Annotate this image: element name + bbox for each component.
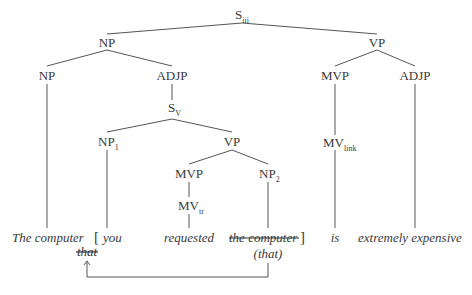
tree-svg: Siii NP VP NP ADJP MVP ADJP SV NP1 VP MV… [0,0,472,295]
word-that-paren: (that) [254,246,283,261]
node-adjp-main: ADJP [399,68,430,83]
close-bracket: ] [300,229,305,245]
word-extremely-expensive: extremely expensive [358,230,462,245]
node-vp-relative: VP [224,134,241,149]
open-bracket: [ [94,229,99,245]
word-you: you [101,230,122,245]
movement-arrow [84,261,268,277]
node-mv-link: MVlink [323,135,356,153]
word-is: is [331,230,340,245]
node-mv-tr: MVtr [178,198,204,216]
word-the-computer: The computer [12,230,85,245]
node-mvp-main: MVP [321,68,349,83]
node-adjp-relative: ADJP [156,68,187,83]
word-requested: requested [164,230,215,245]
tree-edges [47,23,415,228]
node-s-v: SV [168,100,181,118]
node-np-top: NP [99,35,116,50]
node-np2: NP2 [259,166,280,184]
node-np-head: NP [39,68,56,83]
node-s-iii: Siii [235,7,250,25]
node-np1: NP1 [98,134,119,152]
node-vp-top: VP [369,35,386,50]
node-mvp-relative: MVP [175,166,203,181]
syntax-tree-diagram: Siii NP VP NP ADJP MVP ADJP SV NP1 VP MV… [0,0,472,295]
